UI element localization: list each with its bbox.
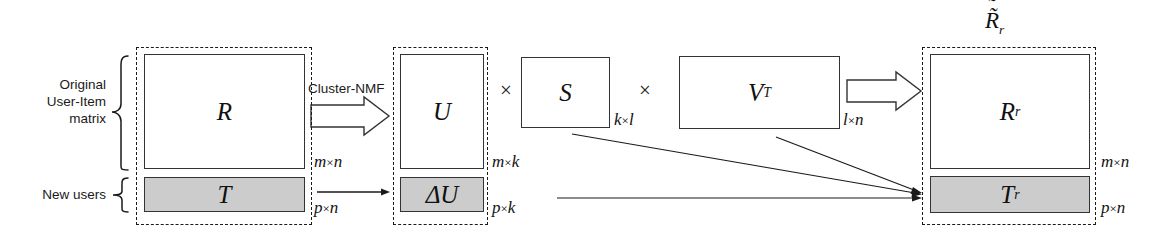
- output-group-title-sub: r: [999, 22, 1004, 37]
- matrix-T-dim: p×n: [314, 198, 338, 218]
- multiply-symbol-2: ×: [639, 78, 651, 103]
- label-original-line-1: Original: [8, 76, 106, 93]
- matrix-deltaU-label: ΔU: [401, 178, 483, 211]
- label-cluster-nmf: Cluster-NMF: [308, 80, 385, 97]
- arrow-s-to-tr: [572, 134, 915, 193]
- arrowhead-t-to-deltau: [381, 189, 390, 196]
- matrix-R-label: R: [145, 55, 304, 168]
- matrix-VT-dim: l×n: [843, 110, 864, 130]
- brace-new-users: [113, 178, 128, 212]
- matrix-Rr-dim: m×n: [1101, 152, 1129, 172]
- matrix-VT-base: V: [748, 79, 763, 107]
- matrix-deltaU-dim: p×k: [492, 198, 515, 218]
- matrix-Rr-subscript: r: [1015, 104, 1020, 120]
- matrix-R-dim: m×n: [314, 152, 342, 172]
- matrix-deltaU-box: ΔU: [400, 177, 484, 212]
- matrix-U-dim: m×k: [492, 152, 519, 172]
- matrix-Tr-label: Tr: [931, 177, 1089, 212]
- label-original-line-3: matrix: [8, 110, 106, 127]
- matrix-S-box: S: [521, 57, 610, 128]
- matrix-S-label: S: [522, 58, 609, 127]
- matrix-U-box: U: [400, 54, 484, 169]
- arrow-vt-to-tr: [776, 137, 914, 190]
- matrix-T-label: T: [145, 178, 304, 211]
- matrix-Tr-subscript: r: [1014, 187, 1019, 203]
- output-group-title-tilde: ˜R̃: [985, 8, 999, 34]
- brace-original-matrix: [112, 56, 128, 170]
- matrix-T-box: T: [144, 177, 305, 212]
- matrix-S-dim: k×l: [614, 110, 634, 130]
- matrix-Tr-dim: p×n: [1101, 198, 1125, 218]
- matrix-U-label: U: [401, 55, 483, 168]
- matrix-Rr-label: Rr: [931, 55, 1089, 168]
- matrix-VT-label: VT: [680, 57, 839, 128]
- label-original-user-item-matrix: Original User-Item matrix: [8, 76, 106, 127]
- block-arrow-reconstruct: [847, 72, 921, 110]
- block-arrow-cluster-nmf: [311, 97, 389, 135]
- label-new-users: New users: [8, 186, 106, 203]
- multiply-symbol-1: ×: [500, 78, 512, 103]
- matrix-Tr-base: T: [1000, 181, 1014, 209]
- matrix-Tr-box: Tr: [930, 176, 1090, 213]
- matrix-VT-superscript: T: [763, 85, 771, 101]
- matrix-VT-box: VT: [679, 56, 840, 129]
- output-group-title: ˜R̃r: [985, 8, 1004, 38]
- matrix-R-box: R: [144, 54, 305, 169]
- figure-canvas: Original User-Item matrix New users R m×…: [0, 0, 1169, 234]
- label-original-line-2: User-Item: [8, 93, 106, 110]
- label-new-users-line-1: New users: [8, 186, 106, 203]
- arrowhead-deltau-to-tr: [912, 195, 922, 202]
- arrowhead-vt-to-tr: [911, 187, 923, 194]
- matrix-Rr-base: R: [1000, 98, 1015, 126]
- matrix-Rr-box: Rr: [930, 54, 1090, 169]
